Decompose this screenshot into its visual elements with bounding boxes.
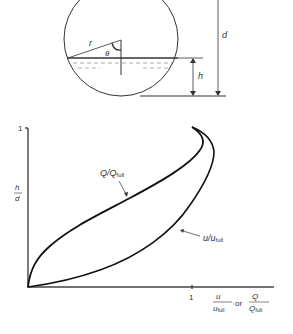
x-axis-u-den: ufull (213, 304, 224, 313)
y-axis-label-num: h (15, 183, 20, 192)
y-axis-label-den: d (15, 194, 20, 203)
radius-label: r (89, 38, 93, 48)
x-axis-q-num: Q (252, 292, 258, 301)
h-arrow-up-icon (190, 58, 196, 63)
q-arrowhead-icon (124, 192, 128, 197)
x-axis-or: or (235, 299, 242, 308)
u-arrowhead-icon (180, 229, 184, 233)
pipe-diagram: r θ h d (64, 0, 228, 96)
d-arrow-down-icon (215, 91, 221, 96)
radius-line (68, 40, 121, 58)
q-curve-annotation: Q/Qfull (100, 168, 124, 178)
angle-label: θ (105, 49, 110, 58)
water-dashes (73, 63, 172, 68)
figure: r θ h d 1 1 h d u ufull or Q Qfull (0, 0, 293, 334)
y-tick-label: 1 (18, 124, 23, 133)
diameter-label: d (222, 30, 228, 40)
angle-arc (112, 43, 121, 50)
q-annotation-arrow (119, 181, 126, 194)
chart: 1 1 h d u ufull or Q Qfull Q/Qfull u/ufu… (14, 124, 274, 313)
depth-label: h (198, 71, 203, 81)
x-axis-u-num: u (216, 292, 221, 301)
u-ratio-curve (28, 127, 214, 287)
h-arrow-down-icon (190, 91, 196, 96)
x-axis-q-den: Qfull (249, 304, 262, 313)
u-curve-annotation: u/ufull (203, 233, 223, 243)
q-ratio-curve (28, 127, 203, 287)
u-annotation-arrow (183, 231, 200, 236)
x-tick-label: 1 (189, 293, 194, 302)
